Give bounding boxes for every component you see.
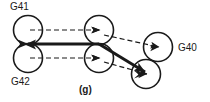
arrowhead-upper-middle xyxy=(91,27,100,34)
solid-line-middle-to-g40 xyxy=(99,44,145,72)
figure-caption: (g) xyxy=(79,84,92,95)
arrowhead-lower-middle xyxy=(91,55,100,62)
figure-container: G41 G42 G40 (g) xyxy=(0,0,210,102)
label-g40: G40 xyxy=(178,42,197,53)
arrowhead-upper-right xyxy=(150,45,160,51)
node-circle-group xyxy=(14,16,173,89)
label-g42: G42 xyxy=(11,76,30,87)
label-g41: G41 xyxy=(10,1,29,12)
